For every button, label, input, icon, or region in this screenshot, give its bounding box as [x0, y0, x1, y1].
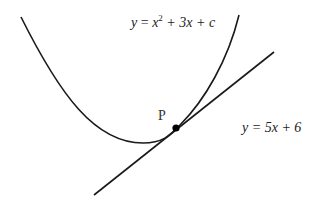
- diagram-svg: P y = x2 + 3x + c y = 5x + 6: [0, 0, 319, 210]
- curve-equation-label: y = x2 + 3x + c: [129, 13, 216, 30]
- curve-eq-equals: =: [137, 15, 152, 30]
- parabola-curve: [21, 15, 239, 143]
- curve-eq-rest: + 3x + c: [163, 15, 216, 30]
- tangent-equation-label: y = 5x + 6: [240, 120, 301, 135]
- diagram-canvas: P y = x2 + 3x + c y = 5x + 6: [0, 0, 319, 210]
- point-p-dot: [172, 124, 179, 131]
- point-p-label: P: [158, 108, 166, 123]
